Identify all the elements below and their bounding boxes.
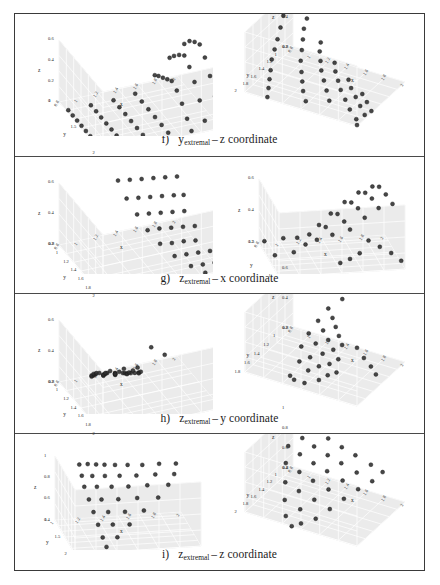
caption-g-subscript: extremal xyxy=(184,277,210,286)
caption-h-subscript: extremal xyxy=(184,417,210,426)
z-tick: 0.8 xyxy=(44,475,50,480)
panel-row-h: 0.60.40.2z0.811.21.41.61.82y0.811.21.41.… xyxy=(15,294,424,433)
axes-3d xyxy=(219,434,424,550)
y-tick: 1 xyxy=(56,388,58,393)
y-tick: 1.2 xyxy=(263,343,269,348)
y-axis-label: y xyxy=(63,412,66,417)
z-tick: 1 xyxy=(44,454,46,459)
y-tick: 2 xyxy=(65,552,67,557)
plot-f-left: 0.60.40.20z11.52y0.811.21.41.61.82x xyxy=(15,14,213,136)
plot-i-right: 10.80.60.4z0.811.21.41.61.82y0.811.21.41… xyxy=(219,434,424,550)
y-tick: 1 xyxy=(56,251,58,256)
x-axis-label: x xyxy=(120,529,123,534)
z-axis-label: z xyxy=(272,15,274,20)
y-tick: 1.6 xyxy=(251,495,257,500)
y-tick: 1.8 xyxy=(235,370,241,375)
y-tick: 1.5 xyxy=(55,535,61,540)
y-axis-label: y xyxy=(247,353,250,358)
y-tick: 1.2 xyxy=(267,60,273,65)
y-tick: 2 xyxy=(235,89,237,94)
y-axis-label: y xyxy=(63,275,66,280)
figure-frame: 0.60.40.20z11.52y0.811.21.41.61.82x 0.60… xyxy=(14,13,425,571)
plot-f-right: 0.60.40.2z0.811.21.41.61.82y0.811.21.41.… xyxy=(219,14,424,136)
y-axis-label: y xyxy=(63,132,66,137)
z-tick: 0.4 xyxy=(282,15,288,20)
plot-pair-h: 0.60.40.2z0.811.21.41.61.82y0.811.21.41.… xyxy=(15,294,424,414)
y-tick: 1.8 xyxy=(85,423,91,428)
caption-f-subscript: extremal xyxy=(184,138,210,147)
z-axis-label: z xyxy=(272,435,274,440)
x-axis-label: x xyxy=(120,245,123,250)
y-tick: 1.4 xyxy=(71,406,77,411)
y-tick: 1.6 xyxy=(78,277,84,282)
caption-g-dash: – xyxy=(212,272,218,284)
z-tick: 0.4 xyxy=(248,208,254,213)
y-tick: 1.8 xyxy=(85,286,91,291)
y-tick: 1.2 xyxy=(267,480,273,485)
y-tick: 1.6 xyxy=(251,75,257,80)
z-tick: 0.6 xyxy=(282,446,288,451)
z-tick: 0.6 xyxy=(44,496,50,501)
y-tick: 1 xyxy=(49,99,51,104)
panel-row-f: 0.60.40.20z11.52y0.811.21.41.61.82x 0.60… xyxy=(15,14,424,156)
y-tick: 1.4 xyxy=(259,67,265,72)
z-tick: 0.2 xyxy=(48,79,54,84)
y-tick: 1.8 xyxy=(243,82,249,87)
axes-3d xyxy=(15,14,213,136)
z-axis-label: z xyxy=(38,211,40,216)
y-axis-label: y xyxy=(247,493,250,498)
y-tick: 1 xyxy=(269,274,271,279)
axes-3d xyxy=(15,434,213,550)
z-tick: 0.4 xyxy=(48,349,54,354)
y-tick: 1 xyxy=(275,53,277,58)
caption-h-dash: – xyxy=(212,412,218,424)
x-axis-label: x xyxy=(351,498,354,503)
y-tick: 1 xyxy=(45,518,47,523)
y-tick: 1.2 xyxy=(63,260,69,265)
z-tick: 1 xyxy=(282,406,284,411)
z-tick: 0.6 xyxy=(48,37,54,42)
plot-pair-f: 0.60.40.20z11.52y0.811.21.41.61.82x 0.60… xyxy=(15,14,424,136)
plot-g-right: 0.60.40.2z1.51y0.811.21.41.61.82x xyxy=(219,157,424,274)
z-tick: 0.4 xyxy=(282,296,288,301)
z-tick: 0.6 xyxy=(248,176,254,181)
x-axis-label: x xyxy=(324,252,327,257)
plot-pair-i: 10.80.60.4z11.52y11.21.41.61.82x 10.80.6… xyxy=(15,434,424,550)
plot-pair-g: 0.60.40.2z0.811.21.41.61.82y0.811.21.41.… xyxy=(15,157,424,274)
z-tick: 0.8 xyxy=(282,426,288,431)
z-tick: 0.6 xyxy=(282,266,288,271)
x-axis-label: x xyxy=(351,358,354,363)
plot-h-left: 0.60.40.2z0.811.21.41.61.82y0.811.21.41.… xyxy=(15,294,213,414)
axes-3d xyxy=(15,157,213,274)
z-tick: 0.4 xyxy=(48,211,54,216)
y-tick: 1.5 xyxy=(71,125,77,130)
z-axis-label: z xyxy=(38,68,40,73)
y-tick: 1 xyxy=(273,334,275,339)
x-axis-label: x xyxy=(351,78,354,83)
panel-row-i: 10.80.60.4z11.52y11.21.41.61.82x 10.80.6… xyxy=(15,434,424,570)
y-axis-label: y xyxy=(250,263,253,268)
y-tick: 1.4 xyxy=(71,268,77,273)
y-tick: 1.4 xyxy=(254,352,260,357)
y-tick: 1.2 xyxy=(63,397,69,402)
x-axis-label: x xyxy=(120,382,123,387)
y-tick: 1.6 xyxy=(244,361,250,366)
y-tick: 2 xyxy=(235,510,237,515)
caption-i-subscript: extremal xyxy=(184,553,210,562)
x-axis-label: x xyxy=(120,102,123,107)
z-axis-label: z xyxy=(272,295,274,300)
plot-i-left: 10.80.60.4z11.52y11.21.41.61.82x xyxy=(15,434,213,550)
y-tick: 1.6 xyxy=(78,414,84,419)
y-axis-label: y xyxy=(46,540,49,545)
z-axis-label: z xyxy=(38,348,40,353)
panel-row-g: 0.60.40.2z0.811.21.41.61.82y0.811.21.41.… xyxy=(15,157,424,293)
z-axis-label: z xyxy=(34,485,36,490)
axes-3d xyxy=(15,294,213,414)
z-axis-label: z xyxy=(238,208,240,213)
axes-3d xyxy=(219,294,424,414)
z-tick: 0.6 xyxy=(48,180,54,185)
y-tick: 1.8 xyxy=(243,502,249,507)
z-tick: 0.4 xyxy=(48,58,54,63)
y-tick: 1 xyxy=(275,473,277,478)
y-tick: 1.4 xyxy=(259,488,265,493)
